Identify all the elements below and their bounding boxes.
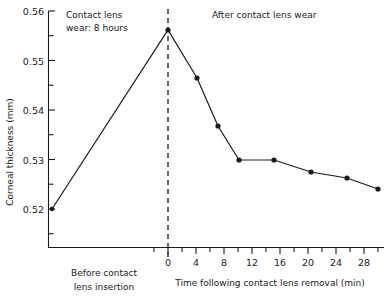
y-axis-major-ticks xyxy=(49,11,56,209)
x-tick-label-7: 28 xyxy=(358,257,370,268)
y-axis-title: Corneal thickness (mm) xyxy=(5,98,15,205)
x-tick-label-3: 12 xyxy=(246,257,258,268)
y-tick-label-0: 0.56 xyxy=(23,6,44,17)
chart-svg: 0.56 0.55 0.54 0.53 0.52 Corneal thickne… xyxy=(0,0,387,303)
y-tick-label-1: 0.55 xyxy=(23,56,44,67)
corneal-thickness-chart: 0.56 0.55 0.54 0.53 0.52 Corneal thickne… xyxy=(0,0,387,303)
data-point xyxy=(165,27,170,32)
data-point xyxy=(344,175,349,180)
wear-annotation-line1: Contact lens xyxy=(66,10,123,20)
y-tick-label-4: 0.52 xyxy=(23,204,44,215)
data-point xyxy=(215,123,220,128)
x-tick-label-2: 8 xyxy=(221,257,227,268)
after-wear-annotation: After contact lens wear xyxy=(212,10,317,20)
x-tick-label-5: 20 xyxy=(302,257,314,268)
data-point xyxy=(375,186,380,191)
x-axis-title: Time following contact lens removal (min… xyxy=(174,278,365,288)
y-axis-minor-ticks xyxy=(49,36,54,234)
before-insertion-annotation-line2: lens insertion xyxy=(74,282,135,292)
x-tick-label-4: 16 xyxy=(274,257,286,268)
x-tick-label-0: 0 xyxy=(165,257,171,268)
data-point xyxy=(194,75,199,80)
before-insertion-annotation-line1: Before contact xyxy=(71,268,137,278)
y-tick-label-3: 0.53 xyxy=(23,155,44,166)
x-axis-minor-ticks xyxy=(154,248,378,253)
data-point xyxy=(50,207,55,212)
x-tick-label-6: 24 xyxy=(330,257,342,268)
data-series-line xyxy=(52,30,378,209)
x-tick-label-1: 4 xyxy=(193,257,199,268)
data-point xyxy=(308,169,313,174)
wear-annotation-line2: wear: 8 hours xyxy=(66,23,128,33)
y-tick-label-2: 0.54 xyxy=(23,105,44,116)
data-point xyxy=(236,157,241,162)
data-point xyxy=(271,157,276,162)
